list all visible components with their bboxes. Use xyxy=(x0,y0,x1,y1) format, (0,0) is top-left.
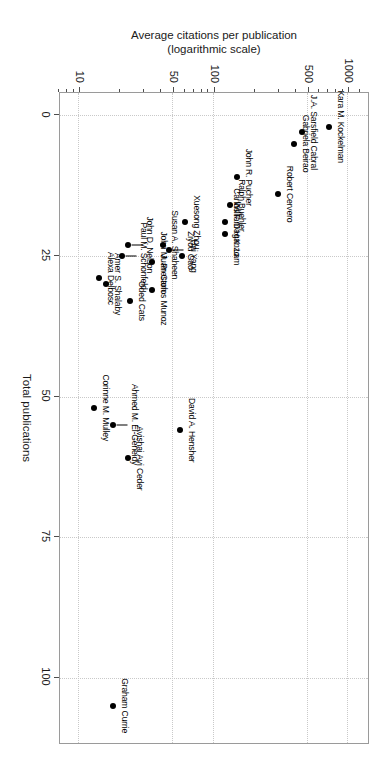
point-label: John M. Preston xyxy=(159,231,168,291)
y-axis-tick xyxy=(173,87,174,92)
x-axis-tick xyxy=(54,396,59,397)
data-point[interactable] xyxy=(326,124,332,130)
data-point[interactable] xyxy=(149,287,155,293)
x-axis-tick-label: 100 xyxy=(40,667,52,685)
label-leader-line xyxy=(126,256,137,257)
point-label: William H.K. Lam xyxy=(232,202,241,266)
point-label: Susan A. Shaheen xyxy=(170,210,179,279)
data-point[interactable] xyxy=(177,427,183,433)
y-axis-minor-tick xyxy=(335,89,336,92)
data-point[interactable] xyxy=(222,219,228,225)
y-axis-minor-tick xyxy=(143,89,144,92)
y-axis-minor-tick xyxy=(184,89,185,92)
x-axis-tick-label: 25 xyxy=(40,249,52,261)
y-axis-minor-tick xyxy=(327,89,328,92)
data-point[interactable] xyxy=(275,191,281,197)
x-axis-tick-label: 0 xyxy=(40,111,52,117)
x-axis-tick-label: 50 xyxy=(40,389,52,401)
y-axis-minor-tick xyxy=(73,89,74,92)
point-label: Paul M. Schonfeld xyxy=(139,222,148,289)
y-axis-minor-tick xyxy=(193,89,194,92)
y-axis-tick-label: 1000 xyxy=(343,59,355,83)
y-axis-title-line1: Average citations per publication xyxy=(131,28,297,42)
data-point[interactable] xyxy=(110,703,116,709)
gridline-vertical-0 xyxy=(60,115,368,116)
data-point[interactable] xyxy=(182,219,188,225)
y-axis-tick-label: 50 xyxy=(168,71,180,83)
label-leader-line xyxy=(117,424,128,425)
data-point[interactable] xyxy=(222,231,228,237)
data-point[interactable] xyxy=(127,298,133,304)
data-point[interactable] xyxy=(110,422,116,428)
gridline-horizontal-4 xyxy=(347,93,348,743)
plot-area: Kara M. KockelmanJ.A. Sarsfield CabralGa… xyxy=(59,92,369,744)
y-axis-tick-label: 10 xyxy=(74,71,86,83)
point-label: Ahmed M. El-Geneidy xyxy=(130,384,139,465)
point-label: Ziyou Gao xyxy=(186,231,195,269)
gridline-horizontal-2 xyxy=(213,93,214,743)
y-axis-title: Average citations per publication (logar… xyxy=(131,28,297,57)
y-axis-tick xyxy=(308,87,309,92)
gridline-horizontal-1 xyxy=(172,93,173,743)
data-point[interactable] xyxy=(96,275,102,281)
y-axis-minor-tick xyxy=(359,89,360,92)
point-label: Graham Currie xyxy=(120,678,129,733)
y-axis-minor-tick xyxy=(201,89,202,92)
point-label: Corinne M. Mulley xyxy=(101,374,110,441)
point-label: Robert Cervero xyxy=(285,166,294,223)
x-axis-title: Total publications xyxy=(21,374,33,462)
y-axis-minor-tick xyxy=(207,89,208,92)
scatter-chart-figure: Kara M. KockelmanJ.A. Sarsfield CabralGa… xyxy=(0,0,387,768)
x-axis-tick xyxy=(54,536,59,537)
gridline-horizontal-0 xyxy=(78,93,79,743)
y-axis-title-line2: (logarithmic scale) xyxy=(131,42,297,56)
y-axis-tick xyxy=(348,87,349,92)
point-label: David A. Hensher xyxy=(187,398,196,462)
y-axis-minor-tick xyxy=(160,89,161,92)
y-axis-minor-tick xyxy=(119,89,120,92)
point-label: Alexa Delbosc xyxy=(106,252,115,305)
y-axis-tick xyxy=(214,87,215,92)
y-axis-minor-tick xyxy=(278,89,279,92)
x-axis-tick xyxy=(54,114,59,115)
y-axis-minor-tick xyxy=(58,89,59,92)
data-point[interactable] xyxy=(91,405,97,411)
y-axis-tick-label: 100 xyxy=(209,65,221,83)
y-axis-tick xyxy=(79,87,80,92)
gridline-horizontal-3 xyxy=(307,93,308,743)
y-axis-minor-tick xyxy=(254,89,255,92)
point-label: Kara M. Kockelman xyxy=(336,91,345,163)
point-label: Gabriela Beirao xyxy=(301,115,310,172)
x-axis-tick-label: 75 xyxy=(40,530,52,542)
y-axis-tick-label: 500 xyxy=(303,65,315,83)
data-point[interactable] xyxy=(291,141,297,147)
x-axis-tick xyxy=(54,677,59,678)
y-axis-minor-tick xyxy=(318,89,319,92)
data-point[interactable] xyxy=(125,242,131,248)
gridline-vertical-3 xyxy=(60,537,368,538)
y-axis-minor-tick xyxy=(66,89,67,92)
gridline-vertical-4 xyxy=(60,678,368,679)
y-axis-minor-tick xyxy=(342,89,343,92)
x-axis-tick xyxy=(54,255,59,256)
data-point[interactable] xyxy=(179,253,185,259)
y-axis-minor-tick xyxy=(295,89,296,92)
